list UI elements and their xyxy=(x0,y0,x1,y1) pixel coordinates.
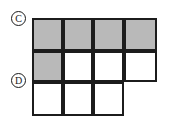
grid-cell-r0-c3 xyxy=(124,18,157,51)
grid-cell-r2-c0 xyxy=(32,82,63,116)
grid-cell-r1-c3 xyxy=(124,51,157,82)
grid-cell-r1-c1 xyxy=(63,51,93,82)
grid-cell-r0-c1 xyxy=(63,18,93,51)
grid-cell-r2-c2 xyxy=(93,82,124,116)
figure-canvas: C D xyxy=(0,0,172,124)
grid-cell-r1-c0 xyxy=(32,51,63,82)
grid-cell-r0-c2 xyxy=(93,18,124,51)
grid-cell-r1-c2 xyxy=(93,51,124,82)
label-c-letter: C xyxy=(15,13,22,23)
grid-cell-r0-c0 xyxy=(32,18,63,51)
grid-cell-r2-c1 xyxy=(63,82,93,116)
label-d: D xyxy=(11,73,26,88)
label-c: C xyxy=(11,11,26,26)
label-d-letter: D xyxy=(15,75,22,85)
